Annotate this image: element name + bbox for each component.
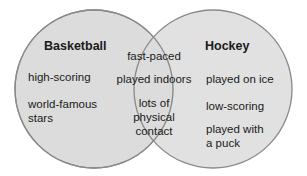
basketball-item-world-famous-line2: stars (28, 112, 53, 125)
basketball-item-world-famous-line1: world-famous (28, 98, 97, 111)
venn-diagram (0, 0, 307, 176)
basketball-title: Basketball (44, 40, 107, 53)
hockey-item-played-on-ice: played on ice (206, 73, 274, 86)
hockey-item-played-with-puck-line2: a puck (206, 137, 240, 150)
hockey-title: Hockey (205, 40, 249, 53)
intersection-item-fast-paced: fast-paced (111, 50, 197, 63)
hockey-item-low-scoring: low-scoring (206, 100, 264, 113)
intersection-item-contact: contact (111, 125, 197, 138)
intersection-item-lots-of: lots of (111, 97, 197, 110)
intersection-item-physical: physical (111, 111, 197, 124)
basketball-item-high-scoring: high-scoring (28, 71, 91, 84)
intersection-item-played-indoors: played indoors (107, 73, 201, 86)
hockey-item-played-with-puck-line1: played with (206, 123, 264, 136)
